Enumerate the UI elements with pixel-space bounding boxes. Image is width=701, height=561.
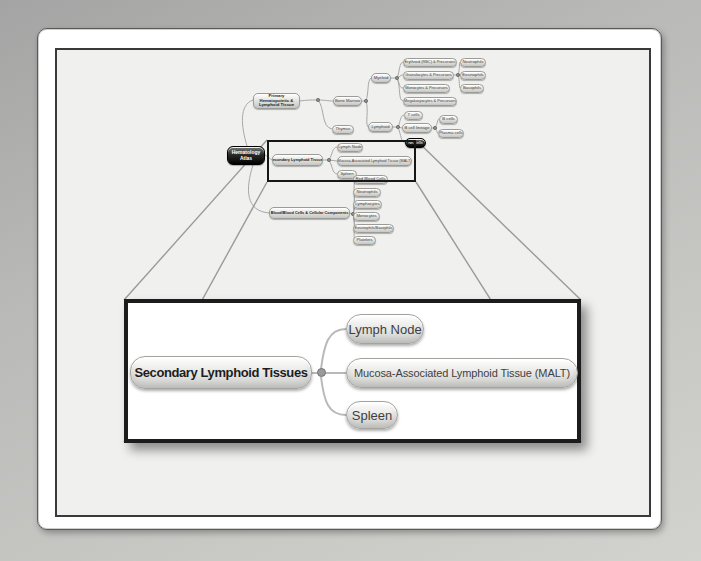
node-megakaryocytes-precursors: Megakaryocytes & Precursors: [403, 97, 457, 106]
junction-dot: [395, 76, 399, 80]
junction-dot: [456, 73, 460, 77]
node-b-cells: B cells: [439, 115, 458, 124]
magnifier-inset: Secondary Lymphoid Tissues Lymph Node Mu…: [124, 299, 581, 443]
inset-node-lymph-node: Lymph Node: [346, 314, 424, 344]
mindmap-canvas: Hematology Atlas Primary Hematopoietic &…: [55, 48, 651, 517]
node-myeloid: Myeloid: [371, 73, 391, 83]
node-eosinophils-basophils: Eosinophils/Basophils: [353, 224, 394, 233]
inset-node-malt: Mucosa-Associated Lymphoid Tissue (MALT): [346, 358, 578, 388]
node-thymus: Thymus: [332, 125, 354, 134]
node-blood-neutrophils: Neutrophils: [353, 188, 381, 197]
node-primary-hematopoietic-lymphoid-tissue: Primary Hematopoietic & Lymphoid Tissue: [253, 93, 300, 109]
node-blood-cells-cellular-components: Blood/Blood Cells & Cellular Components: [269, 207, 350, 219]
inset-node-spleen: Spleen: [346, 401, 398, 429]
highlight-box: [267, 140, 416, 182]
node-erythroid-rbc-precursors: Erythroid (RBC) & Precursors: [403, 58, 457, 67]
junction-dot: [396, 125, 400, 129]
node-lymphocytes: Lymphocytes: [353, 200, 382, 209]
inset-junction-dot: [317, 368, 326, 377]
node-b-cell-lineage: B cell lineage: [402, 123, 432, 133]
node-lymphoid: Lymphoid: [368, 122, 393, 132]
node-basophils: Basophils: [460, 84, 484, 93]
junction-dot: [433, 126, 437, 130]
node-t-cells: T cells: [404, 111, 423, 120]
connector-lines: [57, 50, 649, 515]
junction-dot: [316, 98, 320, 102]
node-root-hematology-atlas: Hematology Atlas: [227, 146, 265, 165]
junction-dot: [364, 99, 368, 103]
node-eosinophils: Eosinophils: [460, 71, 486, 80]
inset-node-secondary-lymphoid-tissues: Secondary Lymphoid Tissues: [130, 356, 312, 389]
node-monocytes-precursors: Monocytes & Precursors: [403, 84, 450, 93]
node-neutrophils: Neutrophils: [460, 58, 486, 67]
node-granulocytes-precursors: Granulocytes & Precursors: [403, 71, 454, 80]
node-blood-monocytes: Monocytes: [353, 212, 380, 221]
node-platelets: Platelets: [353, 236, 376, 245]
figure-card: Hematology Atlas Primary Hematopoietic &…: [37, 28, 662, 530]
node-bone-marrow: Bone Marrow: [333, 96, 362, 106]
node-plasma-cells: Plasma cells: [438, 129, 464, 138]
